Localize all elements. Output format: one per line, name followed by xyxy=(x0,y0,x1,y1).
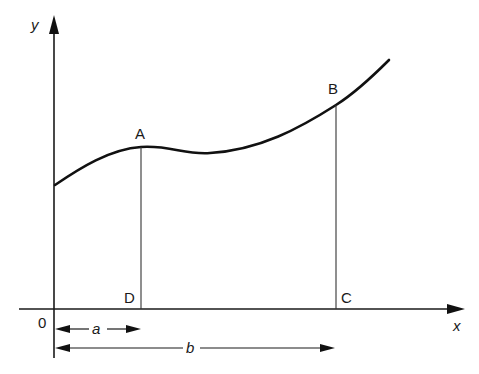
arrow-left-icon xyxy=(55,325,70,333)
dimension-b-label: b xyxy=(186,339,194,356)
arrow-right-icon xyxy=(126,325,141,333)
dimension-a-label: a xyxy=(92,320,100,337)
diagram-canvas: a b y x 0 A B C D xyxy=(0,0,479,374)
y-axis-arrowhead-icon xyxy=(49,15,59,34)
point-A-label: A xyxy=(135,125,145,142)
arrow-left-icon xyxy=(55,344,70,352)
point-D-label: D xyxy=(124,289,135,306)
diagram-svg: a b y x 0 A B C D xyxy=(0,0,479,374)
dimension-a: a xyxy=(55,320,141,337)
point-C-label: C xyxy=(341,289,352,306)
y-axis-label: y xyxy=(30,16,40,33)
arrow-right-icon xyxy=(320,344,335,352)
x-axis xyxy=(19,304,465,314)
x-axis-label: x xyxy=(452,317,461,334)
y-axis xyxy=(49,15,59,358)
point-B-label: B xyxy=(328,80,338,97)
x-axis-arrowhead-icon xyxy=(447,304,465,314)
function-curve xyxy=(55,60,389,185)
origin-label: 0 xyxy=(38,314,46,331)
dimension-b: b xyxy=(55,339,335,356)
